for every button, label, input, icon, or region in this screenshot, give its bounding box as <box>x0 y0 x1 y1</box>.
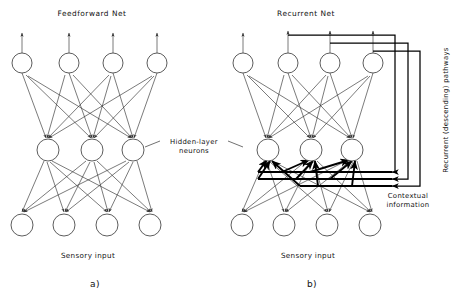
neuron-node <box>12 53 32 73</box>
contextual-information-line1: Contextual <box>388 192 429 200</box>
panel-b-caption: b) <box>307 279 317 289</box>
neuron-node <box>363 53 383 73</box>
panel-a-hidden-to-input-connections <box>22 161 152 212</box>
neuron-node <box>11 214 33 236</box>
hidden-layer-annotation-line1: Hidden-layer <box>170 138 218 146</box>
neuron-node <box>37 139 59 161</box>
neuron-node <box>341 139 363 161</box>
panel-b-hidden-layer <box>257 139 363 161</box>
neuron-node <box>81 139 103 161</box>
neuron-node <box>316 214 338 236</box>
panel-a: Feedforward Net <box>11 9 167 289</box>
neuron-node <box>96 214 118 236</box>
panel-a-hidden-layer <box>37 139 144 161</box>
neuron-node <box>139 214 161 236</box>
neuron-node <box>300 139 322 161</box>
recurrent-pathway <box>373 51 420 186</box>
panel-a-title: Feedforward Net <box>58 9 127 18</box>
panel-a-output-to-hidden-connections <box>22 73 157 138</box>
neuron-node <box>278 53 298 73</box>
neuron-node <box>122 139 144 161</box>
panel-b: Recurrent Net <box>231 9 450 289</box>
recurrent-pathways-label: Recurrent (descending) pathways <box>442 47 450 173</box>
panel-b-output-axons <box>243 31 373 53</box>
panel-b-output-to-hidden-connections <box>243 73 373 138</box>
neural-network-diagram: Feedforward Net <box>0 0 460 299</box>
panel-b-title: Recurrent Net <box>277 9 335 18</box>
contextual-information-line2: information <box>386 201 429 209</box>
neuron-node <box>233 53 253 73</box>
neuron-node <box>257 139 279 161</box>
panel-a-input-label: Sensory input <box>61 251 115 260</box>
neuron-node <box>147 53 167 73</box>
panel-a-output-layer <box>12 53 167 73</box>
panel-a-caption: a) <box>90 279 100 289</box>
neuron-node <box>103 53 123 73</box>
panel-b-input-label: Sensory input <box>281 251 335 260</box>
neuron-node <box>231 214 253 236</box>
figure-canvas: Feedforward Net <box>0 0 460 299</box>
hidden-layer-annotation-line2: neurons <box>179 147 209 155</box>
panel-b-output-layer <box>233 53 383 73</box>
neuron-node <box>53 214 75 236</box>
neuron-node <box>59 53 79 73</box>
panel-b-input-layer <box>231 214 381 236</box>
neuron-node <box>320 53 340 73</box>
neuron-node <box>359 214 381 236</box>
panel-a-output-axons <box>22 33 157 53</box>
neuron-node <box>273 214 295 236</box>
panel-a-input-layer <box>11 214 161 236</box>
hidden-layer-annotation: Hidden-layer neurons <box>145 138 243 155</box>
